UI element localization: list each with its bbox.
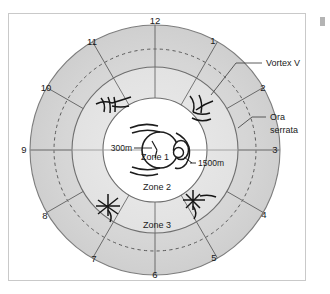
clock-label-4: 4	[261, 209, 266, 220]
zone-label-3: Zone 3	[143, 220, 171, 230]
clock-label-2: 2	[260, 82, 265, 93]
dimension-label-1500: 1500m	[198, 158, 224, 168]
clock-label-12: 12	[150, 15, 161, 26]
clock-label-8: 8	[42, 210, 47, 221]
clock-label-7: 7	[91, 253, 96, 264]
clock-label-5: 5	[211, 252, 216, 263]
fovea	[174, 148, 184, 158]
annotation-ora-serrata-line2: serrata	[270, 125, 298, 135]
annotation-ora-serrata-line1: Ora	[270, 112, 285, 122]
clock-label-9: 9	[21, 144, 26, 155]
zone-label-2: Zone 2	[143, 182, 171, 192]
clock-label-6: 6	[152, 269, 157, 280]
annotation-vortex-vein: Vortex V	[266, 58, 300, 68]
clock-label-3: 3	[272, 144, 277, 155]
optic-disc	[142, 132, 178, 168]
clock-label-1: 1	[210, 35, 215, 46]
figure-page: 12 1 2 3 4 5 6 7 8 9 10 11 Zone 1 Zone 2…	[0, 0, 330, 294]
zone-label-1: Zone 1	[141, 152, 169, 162]
clock-label-11: 11	[87, 36, 97, 47]
clock-label-10: 10	[41, 82, 52, 93]
dimension-label-300: 300m	[111, 143, 132, 153]
retina-zone-diagram: 12 1 2 3 4 5 6 7 8 9 10 11 Zone 1 Zone 2…	[0, 0, 330, 294]
